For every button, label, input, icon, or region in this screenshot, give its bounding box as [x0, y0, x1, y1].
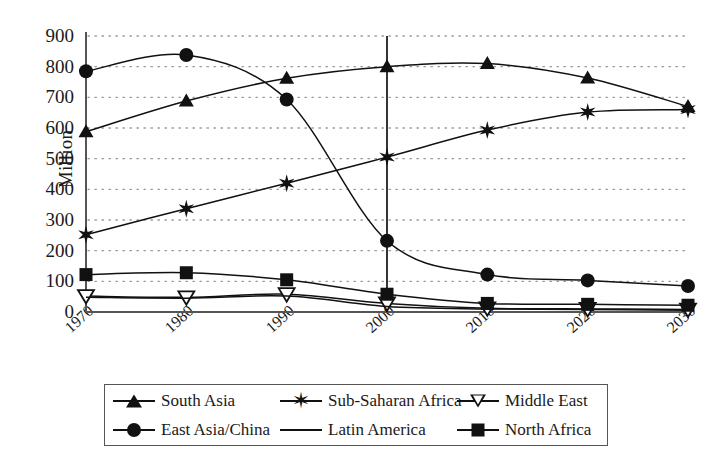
- marker-filled-square: [180, 266, 193, 279]
- legend-row-1: South Asia✶Sub-Saharan AfricaMiddle East: [105, 386, 609, 415]
- marker-star: [78, 226, 94, 244]
- legend-item-middle-east: Middle East: [457, 386, 588, 415]
- triangle-up-icon: [113, 391, 155, 411]
- legend-item-east-asia-china: East Asia/China: [113, 415, 270, 444]
- marker-filled-square: [682, 299, 695, 312]
- marker-star: [480, 121, 496, 139]
- legend-label: Middle East: [505, 391, 588, 411]
- star-icon: ✶: [280, 391, 322, 411]
- triangle-down-icon: [457, 391, 499, 411]
- marker-filled-circle: [79, 64, 93, 78]
- marker-filled-square: [280, 273, 293, 286]
- legend-row-2: East Asia/ChinaLatin AmericaNorth Africa: [105, 415, 609, 444]
- chart-figure: Million 9008007006005004003002001000 197…: [0, 0, 713, 473]
- marker-filled-circle: [581, 273, 595, 287]
- legend-label: South Asia: [161, 391, 235, 411]
- marker-filled-circle: [380, 234, 394, 248]
- legend-label: Sub-Saharan Africa: [328, 391, 462, 411]
- marker-filled-square: [80, 268, 93, 281]
- legend-item-north-africa: North Africa: [457, 415, 591, 444]
- square-icon: [457, 420, 499, 440]
- marker-filled-circle: [280, 92, 294, 106]
- legend-item-south-asia: South Asia: [113, 386, 235, 415]
- legend-label: Latin America: [328, 420, 426, 440]
- line-icon: [280, 420, 322, 440]
- chart-legend: South Asia✶Sub-Saharan AfricaMiddle East…: [104, 384, 608, 446]
- marker-filled-circle: [179, 48, 193, 62]
- marker-filled-circle: [681, 279, 695, 293]
- legend-item-latin-america: Latin America: [280, 415, 426, 444]
- legend-label: East Asia/China: [161, 420, 270, 440]
- marker-star: [179, 200, 195, 218]
- marker-star: [379, 148, 395, 166]
- legend-label: North Africa: [505, 420, 591, 440]
- marker-filled-square: [381, 288, 394, 301]
- marker-filled-square: [581, 298, 594, 311]
- legend-item-sub-saharan-africa: ✶Sub-Saharan Africa: [280, 386, 462, 415]
- marker-filled-square: [481, 297, 494, 310]
- circle-icon: [113, 420, 155, 440]
- marker-filled-circle: [480, 268, 494, 282]
